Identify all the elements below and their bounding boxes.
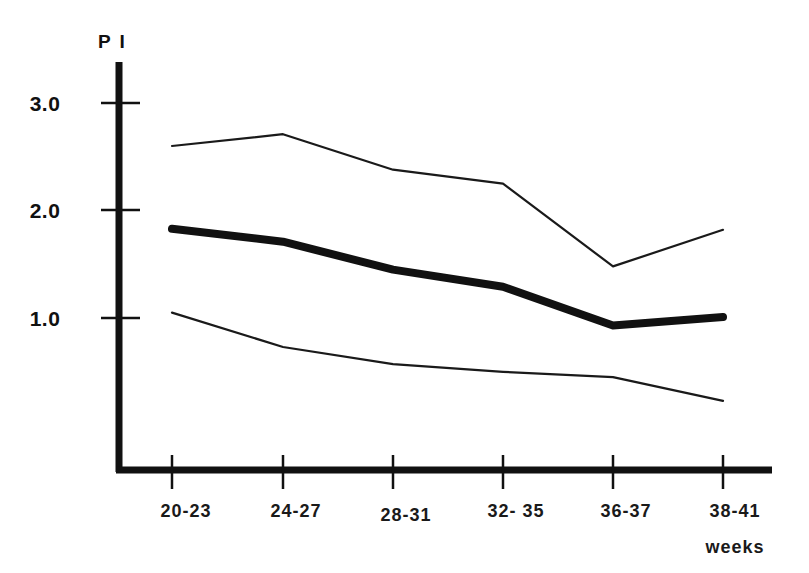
series-upper-line	[172, 134, 723, 266]
y-axis-title: P I	[98, 31, 127, 52]
x-tick-label-3: 32- 35	[487, 501, 544, 521]
y-tick-label-3: 3.0	[30, 92, 61, 115]
x-tick-label-1: 24-27	[270, 501, 321, 521]
chart-page: P I 3.0 2.0 1.0 20-23 24-27 28-31 32- 35…	[0, 0, 809, 573]
axis-group	[116, 62, 772, 472]
series-median-line	[172, 229, 723, 326]
pi-line-chart: P I 3.0 2.0 1.0 20-23 24-27 28-31 32- 35…	[0, 0, 809, 573]
x-tick-label-4: 36-37	[600, 501, 651, 521]
y-tick-label-1: 1.0	[30, 307, 61, 330]
x-axis-unit-label: weeks	[704, 537, 764, 557]
x-tick-label-2: 28-31	[380, 505, 431, 525]
x-tick-label-0: 20-23	[160, 501, 211, 521]
x-tick-label-5: 38-41	[709, 501, 760, 521]
y-tick-label-2: 2.0	[30, 199, 61, 222]
